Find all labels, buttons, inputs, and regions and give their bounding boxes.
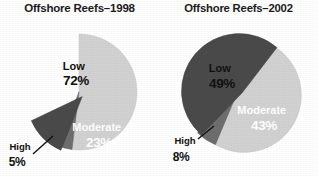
pie-label-moderate-pct-1998: 23% [86, 135, 112, 150]
pie-leader-line-high-1998 [33, 136, 53, 154]
pie-label-moderate-pct-2002: 43% [251, 118, 277, 133]
pie-label-high-name-2002: High [174, 135, 195, 146]
pie-label-low-pct-2002: 49% [209, 76, 235, 91]
offshore-reefs-pie-figure: Offshore Reefs–1998 Low 72% Moder [0, 0, 318, 176]
pie-label-moderate-name-2002: Moderate [237, 104, 286, 116]
chart-title-2002: Offshore Reefs–2002 [159, 2, 318, 14]
pie-svg-1998: Low 72% Moderate 23% High 5% [0, 18, 159, 176]
pie-label-high-name-1998: High [9, 141, 30, 152]
chart-panel-2002: Offshore Reefs–2002 Low 49% Moder [159, 0, 318, 176]
pie-label-low-name-2002: Low [209, 62, 231, 74]
pie-chart-1998: Low 72% Moderate 23% High 5% [0, 18, 159, 176]
pie-label-moderate-name-1998: Moderate [72, 121, 121, 133]
pie-label-low-1998: Low 72% [63, 56, 90, 88]
chart-panel-1998: Offshore Reefs–1998 Low 72% Moder [0, 0, 159, 176]
pie-label-high-pct-1998: 5% [9, 155, 26, 169]
pie-chart-2002: Low 49% Moderate 43% High 8% [159, 18, 318, 176]
pie-label-low-pct-1998: 72% [63, 73, 89, 88]
pie-svg-2002: Low 49% Moderate 43% High 8% [159, 18, 318, 176]
pie-label-high-pct-2002: 8% [173, 150, 190, 164]
pie-label-low-name-1998: Low [63, 60, 85, 72]
chart-title-1998: Offshore Reefs–1998 [0, 2, 159, 14]
